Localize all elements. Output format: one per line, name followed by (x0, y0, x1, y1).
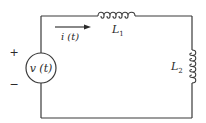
circuit-diagram: v (t) + − i (t) L1 L2 (0, 0, 206, 123)
inductor-l1-label-sub: 1 (119, 30, 123, 38)
current-arrow-head (84, 25, 91, 30)
inductor-l1-label-main: L (111, 23, 119, 36)
voltage-source-label: v (t) (30, 62, 53, 75)
inductor-l1-coil (98, 12, 135, 18)
inductor-l2-label-main: L (170, 60, 178, 73)
current-label: i (t) (61, 31, 79, 42)
inductor-l2-label: L2 (170, 60, 183, 75)
voltage-source: v (t) (26, 53, 56, 83)
polarity-minus: − (9, 78, 18, 91)
inductor-l1 (98, 12, 135, 18)
inductor-l2 (190, 50, 196, 83)
inductor-l2-label-sub: 2 (178, 67, 182, 75)
inductor-l2-coil (190, 50, 196, 83)
current-arrow (55, 25, 91, 30)
inductor-l1-label: L1 (111, 23, 124, 38)
polarity-plus: + (9, 46, 18, 59)
